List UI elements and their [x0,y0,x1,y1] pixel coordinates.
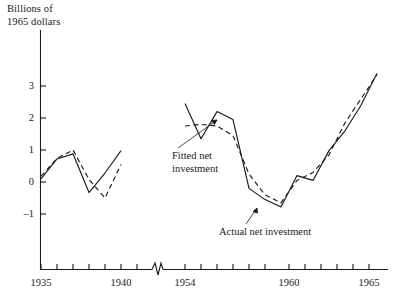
data-series-layer [41,73,377,207]
chart-plot-area [0,0,398,304]
chart-figure: Billions of 1965 dollars 3 2 1 0 –1 1935… [0,0,398,304]
series-actual-net-investment-prewar [41,151,121,193]
x-axis-break-icon [152,263,163,275]
series-actual-net-investment-postwar [185,73,377,207]
series-fitted-net-investment-postwar [185,75,377,203]
x-tick-marks [41,264,369,270]
y-tick-marks [41,86,47,214]
